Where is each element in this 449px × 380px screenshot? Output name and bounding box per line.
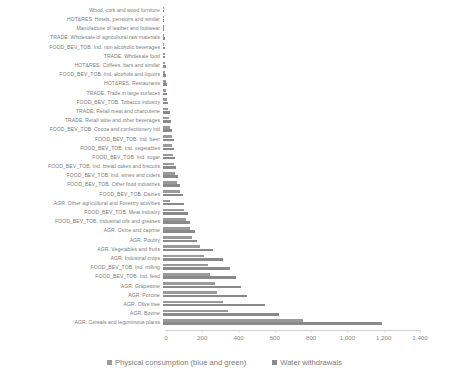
category-label: HOT&RES. Hotels, pensions and similar xyxy=(0,17,163,22)
x-axis: 02004006008001,0001,2001,400 xyxy=(166,330,420,331)
category-label: TRADE. Wholesale of agricultural raw mat… xyxy=(0,35,163,40)
bar-physical-consumption xyxy=(163,154,173,157)
category-label: FOOD_BEV_TOB. Ind. feed xyxy=(0,274,163,279)
bar-water-withdrawals xyxy=(163,157,175,160)
plot-area: Wood, cork and wood furnitureHOT&RES. Ho… xyxy=(0,6,449,328)
bar-physical-consumption xyxy=(163,255,204,258)
bar-group xyxy=(163,208,449,217)
bar-physical-consumption xyxy=(163,98,167,101)
category-label: TRADE. Trade in large surfaces xyxy=(0,91,163,96)
legend-swatch-icon xyxy=(272,360,277,365)
bar-physical-consumption xyxy=(163,236,192,239)
bar-group xyxy=(163,263,449,272)
bar-physical-consumption xyxy=(163,43,164,46)
bar-group xyxy=(163,162,449,171)
chart-row: FOOD_BEV_TOB. Ind. wines and ciders xyxy=(0,171,449,180)
category-label: AGR. Cereals and leguminous plants xyxy=(0,320,163,325)
chart-legend: Physical consumption (blue and green)Wat… xyxy=(0,358,449,367)
category-label: FOOD_BEV_TOB. Other food industries xyxy=(0,182,163,187)
chart-row: AGR. Cereals and leguminous plants xyxy=(0,318,449,327)
bar-water-withdrawals xyxy=(163,65,166,68)
category-label: FOOD_BEV_TOB. Ind. sugar xyxy=(0,155,163,160)
x-axis-tick-label: 1,000 xyxy=(340,334,355,341)
bar-physical-consumption xyxy=(163,108,168,111)
category-label: Manufacture of leather and footwear xyxy=(0,26,163,31)
category-label: FOOD_BEV_TOB. Industrial oils and grease… xyxy=(0,219,163,224)
bar-group xyxy=(163,15,449,24)
chart-row: AGR. Industrial crops xyxy=(0,254,449,263)
category-label: FOOD_BEV_TOB. Ind. non alcoholic beverag… xyxy=(0,45,163,50)
chart-row: AGR. Vegetables and fruits xyxy=(0,245,449,254)
category-label: FOOD_BEV_TOB. Dairies xyxy=(0,192,163,197)
bar-group xyxy=(163,144,449,153)
legend-item[interactable]: Water withdrawals xyxy=(272,358,342,367)
chart-row: FOOD_BEV_TOB. Ind. milling xyxy=(0,263,449,272)
chart-row: FOOD_BEV_TOB. Tobacco industry xyxy=(0,98,449,107)
category-label: FOOD_BEV_TOB. Ind. vegetables xyxy=(0,146,163,151)
category-label: FOOD_BEV_TOB. Ind. beer xyxy=(0,137,163,142)
bar-physical-consumption xyxy=(163,117,169,120)
bar-water-withdrawals xyxy=(163,47,165,50)
bar-group xyxy=(163,107,449,116)
bar-water-withdrawals xyxy=(163,194,183,197)
x-axis-tick-label: 0 xyxy=(164,334,167,341)
category-label: TRADE. Wholesale food xyxy=(0,54,163,59)
chart-row: FOOD_BEV_TOB. Ind. bread cakes and biscu… xyxy=(0,162,449,171)
bar-physical-consumption xyxy=(163,200,170,203)
chart-row: TRADE. Wholesale food xyxy=(0,52,449,61)
bar-physical-consumption xyxy=(163,25,164,28)
bar-group xyxy=(163,34,449,43)
bar-group xyxy=(163,309,449,318)
legend-label: Physical consumption (blue and green) xyxy=(115,358,246,367)
legend-item[interactable]: Physical consumption (blue and green) xyxy=(107,358,246,367)
category-label: AGR. Grapewine xyxy=(0,284,163,289)
bar-physical-consumption xyxy=(163,16,164,19)
x-axis-tick xyxy=(420,330,421,332)
chart-row: AGR. Bovine xyxy=(0,309,449,318)
chart-row: AGR. Olive tree xyxy=(0,300,449,309)
bar-group xyxy=(163,217,449,226)
bar-water-withdrawals xyxy=(163,28,164,31)
legend-label: Water withdrawals xyxy=(280,358,342,367)
bar-group xyxy=(163,89,449,98)
legend-swatch-icon xyxy=(107,360,112,365)
bar-water-withdrawals xyxy=(163,111,170,114)
chart-row: AGR. Grapewine xyxy=(0,282,449,291)
bar-water-withdrawals xyxy=(163,230,195,233)
bar-group xyxy=(163,6,449,15)
chart-row: FOOD_BEV_TOB. Ind. feed xyxy=(0,272,449,281)
bar-physical-consumption xyxy=(163,172,175,175)
category-label: FOOD_BEV_TOB. Ind. milling xyxy=(0,265,163,270)
x-axis-tick-label: 1,200 xyxy=(376,334,391,341)
bar-physical-consumption xyxy=(163,7,164,10)
chart-row: TRADE. Retail wine and other beverages xyxy=(0,116,449,125)
bar-group xyxy=(163,171,449,180)
bar-physical-consumption xyxy=(163,135,172,138)
bar-group xyxy=(163,318,449,327)
bar-group xyxy=(163,300,449,309)
x-axis-tick xyxy=(311,330,312,332)
x-axis-tick xyxy=(166,330,167,332)
category-label: AGR. Vegetables and fruits xyxy=(0,247,163,252)
bar-physical-consumption xyxy=(163,301,223,304)
bar-physical-consumption xyxy=(163,319,303,322)
bar-water-withdrawals xyxy=(163,249,213,252)
bar-group xyxy=(163,24,449,33)
bar-water-withdrawals xyxy=(163,304,265,307)
bar-water-withdrawals xyxy=(163,10,164,13)
bar-group xyxy=(163,52,449,61)
chart-row: TRADE. Retail meat and charcuterie xyxy=(0,107,449,116)
bar-water-withdrawals xyxy=(163,212,188,215)
bar-physical-consumption xyxy=(163,80,166,83)
x-axis-tick xyxy=(202,330,203,332)
bar-physical-consumption xyxy=(163,209,184,212)
bar-physical-consumption xyxy=(163,291,217,294)
chart-row: FOOD_BEV_TOB. Cocoa and confectionery in… xyxy=(0,125,449,134)
category-label: AGR. Other agricultural and Forestry act… xyxy=(0,201,163,206)
chart-row: TRADE. Trade in large surfaces xyxy=(0,89,449,98)
category-label: FOOD_BEV_TOB. Meat industry xyxy=(0,210,163,215)
x-axis-tick xyxy=(384,330,385,332)
bar-group xyxy=(163,199,449,208)
category-label: AGR. Poultry xyxy=(0,238,163,243)
bar-physical-consumption xyxy=(163,227,190,230)
